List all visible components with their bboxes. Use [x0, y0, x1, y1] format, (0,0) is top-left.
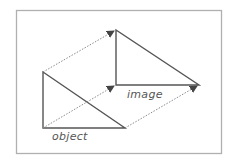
translation-arrow-bottom-left: [43, 86, 114, 128]
translation-diagram: [0, 0, 235, 161]
image-label: image: [127, 89, 163, 100]
object-triangle: [43, 72, 125, 128]
diagram-canvas: image object: [0, 0, 235, 161]
object-label: object: [52, 131, 88, 142]
translation-arrow-top: [43, 31, 114, 72]
image-triangle: [116, 30, 199, 85]
